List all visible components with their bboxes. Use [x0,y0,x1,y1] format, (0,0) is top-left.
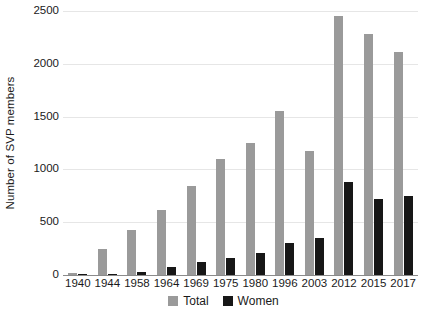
bar-women-1944 [108,274,117,275]
bar-women-2003 [315,238,324,275]
bar-total-1969 [187,186,196,275]
x-axis-tick-labels: 1940194419581964196919751980199620032012… [63,278,418,290]
x-tick-label: 1958 [122,278,152,290]
chart-legend: TotalWomen [0,295,427,307]
bar-group [181,11,211,275]
bar-women-1958 [137,272,146,275]
legend-swatch-icon [223,296,233,306]
axis-baseline [63,275,418,276]
bar-group [211,11,241,275]
bar-women-1996 [285,243,294,275]
y-tick-label: 500 [19,216,59,228]
x-tick-label: 1969 [181,278,211,290]
x-tick-label: 1996 [270,278,300,290]
legend-label: Women [238,295,279,307]
bar-group [122,11,152,275]
legend-swatch-icon [168,296,178,306]
bar-total-1996 [275,111,284,275]
bar-total-1958 [127,230,136,275]
bar-women-1969 [197,262,206,275]
bar-group [240,11,270,275]
bars-layer [63,11,418,275]
bar-group [93,11,123,275]
x-tick-label: 2003 [300,278,330,290]
bar-total-2012 [334,16,343,275]
bar-group [300,11,330,275]
bar-women-1940 [78,274,87,275]
bar-chart: Number of SVP members 050010001500200025… [0,0,427,318]
x-tick-label: 1964 [152,278,182,290]
y-tick-label: 2500 [19,5,59,17]
bar-women-2017 [404,196,413,275]
bar-total-2015 [364,34,373,275]
y-tick-label: 0 [19,269,59,281]
x-tick-label: 1975 [211,278,241,290]
x-tick-label: 1944 [93,278,123,290]
legend-item-women: Women [223,295,279,307]
bar-total-1975 [216,159,225,275]
y-axis-tick-labels: 05001000150020002500 [15,11,59,275]
legend-label: Total [183,295,208,307]
bar-women-2015 [374,199,383,275]
bar-total-2003 [305,151,314,275]
y-tick-label: 1000 [19,164,59,176]
bar-total-1940 [68,273,77,275]
bar-group [63,11,93,275]
bar-women-1980 [256,253,265,275]
bar-group [329,11,359,275]
bar-group [152,11,182,275]
x-tick-label: 2015 [359,278,389,290]
bar-women-2012 [344,182,353,275]
y-tick-label: 1500 [19,111,59,123]
bar-total-1964 [157,210,166,275]
bar-women-1975 [226,258,235,275]
bar-women-1964 [167,267,176,275]
x-tick-label: 2017 [388,278,418,290]
bar-total-1944 [98,249,107,275]
bar-group [270,11,300,275]
legend-item-total: Total [168,295,208,307]
y-tick-label: 2000 [19,58,59,70]
bar-group [388,11,418,275]
bar-total-1980 [246,143,255,275]
x-tick-label: 2012 [329,278,359,290]
x-tick-label: 1980 [240,278,270,290]
bar-group [359,11,389,275]
x-tick-label: 1940 [63,278,93,290]
bar-total-2017 [394,52,403,275]
